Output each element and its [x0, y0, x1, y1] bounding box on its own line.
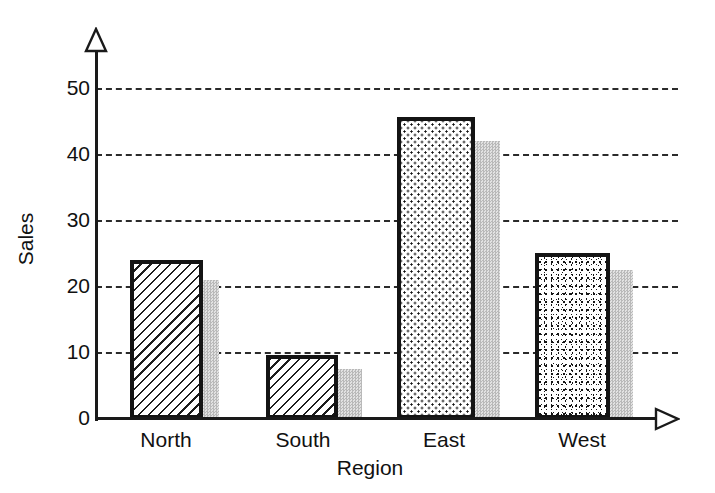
- x-tick-label-south: South: [243, 429, 363, 450]
- x-axis-title: Region: [300, 456, 440, 480]
- bar-north: [130, 260, 203, 419]
- arrow-up-icon: [84, 27, 108, 57]
- y-tick-label: 30: [46, 209, 90, 230]
- y-axis-line: [95, 46, 98, 421]
- y-tick-label: 10: [46, 341, 90, 362]
- y-tick-label: 0: [46, 407, 90, 428]
- bar-east: [397, 117, 475, 419]
- y-tick-label: 20: [46, 275, 90, 296]
- bar-shadow-east: [473, 141, 500, 419]
- bar-shadow-west: [608, 270, 633, 419]
- bar-west: [535, 253, 610, 419]
- y-tick-label: 50: [46, 77, 90, 98]
- x-axis-line: [95, 417, 661, 420]
- arrow-right-icon: [652, 407, 680, 435]
- gridline-30: [96, 220, 678, 222]
- gridline-40: [96, 154, 678, 156]
- bar-shadow-south: [336, 369, 362, 419]
- y-axis-title: Sales: [14, 189, 38, 289]
- plot-area: 50 40 30 20 10 0 North South East West S…: [0, 0, 715, 493]
- gridline-50: [96, 88, 678, 90]
- x-tick-label-west: West: [522, 429, 642, 450]
- y-tick-label: 40: [46, 143, 90, 164]
- x-tick-label-east: East: [384, 429, 504, 450]
- bar-chart-figure: 50 40 30 20 10 0 North South East West S…: [0, 0, 715, 493]
- x-tick-label-north: North: [106, 429, 226, 450]
- bar-south: [266, 355, 338, 419]
